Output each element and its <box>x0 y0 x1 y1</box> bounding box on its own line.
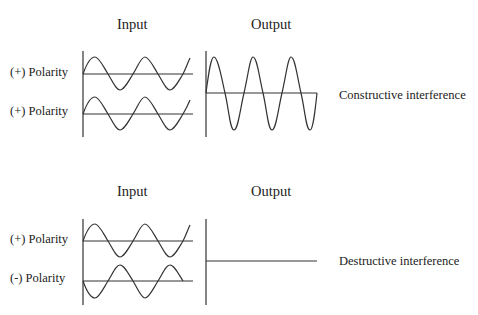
interference-diagram <box>0 0 478 315</box>
